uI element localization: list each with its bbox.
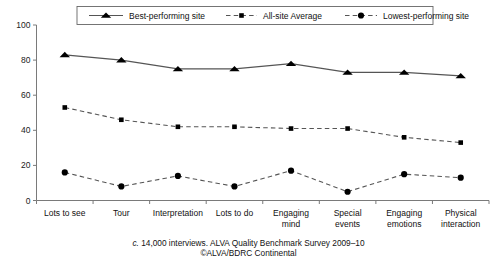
data-point-marker bbox=[62, 169, 68, 175]
caption-main-text: 14,000 interviews. ALVA Quality Benchmar… bbox=[141, 238, 365, 248]
legend-circle-icon bbox=[358, 12, 364, 18]
data-point-marker bbox=[175, 173, 181, 179]
x-category-label: interaction bbox=[441, 219, 480, 229]
data-point-marker bbox=[344, 189, 350, 195]
data-point-marker bbox=[176, 124, 181, 129]
data-point-marker bbox=[402, 135, 407, 140]
x-category-label: Engaging bbox=[386, 208, 422, 218]
caption-line-1: c. 14,000 interviews. ALVA Quality Bench… bbox=[132, 238, 365, 248]
data-point-marker bbox=[231, 183, 237, 189]
chart-container: Best-performing siteAll-site AverageLowe… bbox=[0, 0, 497, 265]
y-tick-label: 60 bbox=[21, 90, 31, 100]
data-point-marker bbox=[458, 175, 464, 181]
caption-line-2: ©ALVA/BDRC Continental bbox=[200, 248, 296, 258]
data-point-marker bbox=[118, 183, 124, 189]
data-point-marker bbox=[401, 171, 407, 177]
data-point-marker bbox=[62, 105, 67, 110]
legend-square-icon bbox=[239, 13, 244, 18]
x-category-label: Lots to see bbox=[44, 208, 86, 218]
x-category-label: Special bbox=[334, 208, 362, 218]
chart-legend: Best-performing siteAll-site AverageLowe… bbox=[77, 7, 469, 25]
legend-item-label: Best-performing site bbox=[129, 11, 205, 21]
data-point-marker bbox=[289, 126, 294, 131]
y-tick-label: 80 bbox=[21, 55, 31, 65]
legend-item-label: All-site Average bbox=[263, 11, 322, 21]
data-point-marker bbox=[288, 168, 294, 174]
y-tick-label: 40 bbox=[21, 125, 31, 135]
caption-italic-prefix: c. bbox=[132, 238, 141, 248]
x-category-label: mind bbox=[282, 219, 301, 229]
data-point-marker bbox=[119, 117, 124, 122]
x-category-label: Interpretation bbox=[153, 208, 203, 218]
data-point-marker bbox=[232, 124, 237, 129]
x-category-label: Tour bbox=[113, 208, 130, 218]
data-point-marker bbox=[458, 140, 463, 145]
line-chart: Best-performing siteAll-site AverageLowe… bbox=[0, 0, 497, 265]
x-category-label: events bbox=[335, 219, 360, 229]
y-tick-label: 0 bbox=[26, 196, 31, 206]
x-category-label: emotions bbox=[387, 219, 422, 229]
chart-background bbox=[0, 0, 497, 265]
y-tick-label: 20 bbox=[21, 160, 31, 170]
legend-item-label: Lowest-performing site bbox=[383, 11, 469, 21]
x-category-label: Lots to do bbox=[216, 208, 254, 218]
y-tick-label: 100 bbox=[16, 20, 30, 30]
x-category-label: Engaging bbox=[273, 208, 309, 218]
data-point-marker bbox=[345, 126, 350, 131]
x-category-label: Physical bbox=[445, 208, 477, 218]
